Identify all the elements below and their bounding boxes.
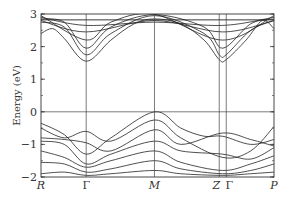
band-line [41, 17, 274, 25]
y-tick-label: 3 [30, 8, 37, 21]
plot-area [41, 14, 274, 177]
band-line [41, 19, 274, 62]
band-line [41, 130, 274, 152]
y-tick-label: −1 [21, 138, 37, 151]
y-tick-label: 1 [30, 73, 37, 86]
k-point-label: Γ [225, 179, 233, 192]
k-point-label: P [269, 179, 278, 192]
y-tick-label: 2 [30, 41, 37, 54]
y-axis-label: Energy (eV) [11, 65, 22, 126]
band-structure-chart: 3210−1−2Energy (eV)RΓMZΓP [0, 0, 294, 199]
band-line [41, 120, 274, 158]
y-tick-label: −2 [21, 171, 37, 184]
k-point-label: R [36, 179, 45, 192]
y-tick-label: 0 [30, 106, 37, 119]
k-point-label: M [148, 179, 161, 192]
band-line [41, 112, 274, 155]
k-point-label: Z [211, 179, 220, 192]
band-line [41, 161, 274, 174]
band-line [41, 14, 274, 41]
k-point-label: Γ [82, 179, 90, 192]
